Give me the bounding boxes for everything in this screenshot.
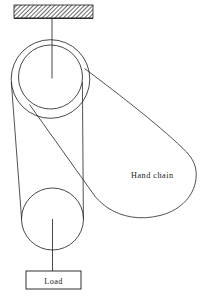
diagram-canvas: Hand chain Load [0, 0, 206, 300]
hand-chain-label: Hand chain [131, 171, 174, 180]
load-chain-left-strand [11, 82, 21, 219]
load-chain-right-strand [82, 82, 83, 219]
load-label: Load [44, 277, 62, 286]
ceiling-support [14, 5, 93, 18]
ceiling-support-hatch [14, 5, 93, 18]
hand-chain-outer-strand [85, 69, 197, 218]
upper-pulley-inner-circle [19, 45, 83, 109]
chain-hoist-diagram: Hand chain Load [0, 0, 206, 300]
upper-pulley-outer-circle [11, 40, 90, 119]
